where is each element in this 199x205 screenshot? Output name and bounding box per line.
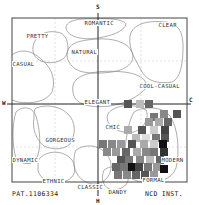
mosaic-cell	[150, 126, 158, 134]
region-label-natural: NATURAL	[71, 49, 98, 55]
mosaic-cell	[133, 148, 141, 156]
mosaic-cell	[161, 126, 169, 134]
region-label-clear: CLEAR	[158, 22, 177, 28]
mosaic-cell	[145, 118, 153, 126]
mosaic-cell	[164, 118, 172, 126]
mosaic-cell	[128, 163, 136, 171]
region-label-classic: CLASSIC	[77, 184, 104, 190]
mosaic-cell	[155, 118, 163, 126]
mosaic-cell	[117, 156, 125, 164]
region-label-formal: FORMAL	[142, 177, 165, 183]
mosaic-cell	[145, 100, 153, 108]
mosaic-cell	[108, 140, 116, 148]
mosaic-cell	[173, 110, 181, 118]
mosaic-cell	[150, 140, 158, 148]
mosaic-cell	[128, 140, 136, 148]
mosaic-cell	[123, 171, 131, 179]
mosaic-cell	[120, 163, 128, 171]
mosaic-cell	[125, 156, 133, 164]
mosaic-cell	[114, 171, 122, 179]
mosaic-cell	[160, 148, 168, 156]
region-label-modern: MODERN	[161, 157, 184, 163]
region-label-dynamic: DYNAMIC	[12, 157, 39, 163]
region-label-dandy: DANDY	[108, 189, 127, 195]
mosaic-cell	[146, 156, 154, 164]
mosaic-cell	[135, 163, 143, 171]
mosaic-cell	[150, 148, 158, 156]
mosaic-cell	[132, 171, 140, 179]
mosaic-cell	[136, 100, 144, 108]
mosaic-cell	[124, 126, 132, 134]
mosaic-cell	[112, 148, 120, 156]
region-label-chic: CHIC	[105, 124, 121, 130]
mosaic-cell	[159, 140, 167, 148]
region-label-gorgeous: GORGEOUS	[45, 137, 75, 143]
mosaic-cell	[99, 140, 107, 148]
mosaic-cell	[142, 148, 150, 156]
region-label-ethnic: ETHNIC	[42, 178, 65, 184]
region-label-cool-casual: COOL-CASUAL	[139, 83, 180, 89]
mosaic-cell	[124, 100, 132, 108]
mosaic-cell	[160, 110, 168, 118]
axis-label-left: W	[2, 100, 6, 106]
axis-label-top: S	[96, 4, 100, 10]
mosaic-cell	[122, 148, 130, 156]
mosaic-cell	[138, 126, 146, 134]
axis-label-right: C	[189, 97, 193, 103]
patent-number: PAT.1106334	[12, 191, 58, 198]
mosaic-cell	[117, 140, 125, 148]
mosaic-cell	[140, 140, 148, 148]
region-label-pretty: PRETTY	[26, 33, 49, 39]
mosaic-cell	[160, 165, 168, 173]
mosaic-cell	[112, 163, 120, 171]
region-label-elegant: ELEGANT	[84, 99, 111, 105]
mosaic-cell	[136, 156, 144, 164]
image-scale-diagram: S W C H ROMANTICCLEARPRETTYNATURALCASUAL…	[0, 0, 199, 205]
mosaic-cell	[144, 163, 152, 171]
axis-label-bottom: H	[96, 198, 100, 204]
mosaic-cell	[153, 163, 161, 171]
region-label-casual: CASUAL	[12, 61, 35, 67]
institute-credit: NCD INST.	[145, 191, 183, 198]
region-label-romantic: ROMANTIC	[84, 20, 114, 26]
mosaic-cell	[103, 148, 111, 156]
